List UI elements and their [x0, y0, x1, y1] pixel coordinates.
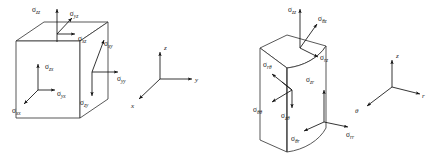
- cube-front-face: [16, 41, 80, 118]
- axis-label-x: x: [130, 102, 135, 110]
- cartesian-cube-body: [16, 22, 108, 118]
- axis-label-z-cyl: z: [395, 52, 399, 60]
- axis-label-r: r: [422, 92, 425, 100]
- label-sigma-yz: σyz: [70, 9, 78, 19]
- cartesian-axis-labels: z y x: [130, 44, 199, 110]
- axis-arrow-x: [139, 79, 160, 99]
- axis-label-y: y: [194, 76, 199, 84]
- axis-label-theta: θ: [355, 107, 359, 115]
- label-sigma-xy: σxy: [104, 39, 113, 49]
- axis-arrow-theta: [367, 87, 392, 106]
- label-sigma-rr: σrr: [346, 130, 355, 140]
- arrow-sigma-rr: [324, 122, 348, 127]
- label-sigma-zz: σzz: [32, 5, 40, 15]
- figure-canvas: σzz σyz σxz σzx σyx σxx σxy σyy σzy z y …: [0, 0, 429, 160]
- label-sigma-theta-z: σθz: [318, 14, 327, 24]
- cylindrical-axis-labels: z r θ: [355, 52, 425, 115]
- label-sigma-yy: σyy: [117, 74, 126, 84]
- axis-label-z: z: [163, 44, 167, 52]
- label-sigma-zz-cyl: σzz: [288, 5, 296, 15]
- cartesian-axes-triad-arrows: [139, 52, 192, 99]
- axis-arrow-r: [392, 87, 420, 94]
- cylindrical-axes-triad-arrows: [367, 60, 420, 106]
- stress-element-figure: σzz σyz σxz σzx σyx σxx σxy σyy σzy z y …: [0, 0, 429, 160]
